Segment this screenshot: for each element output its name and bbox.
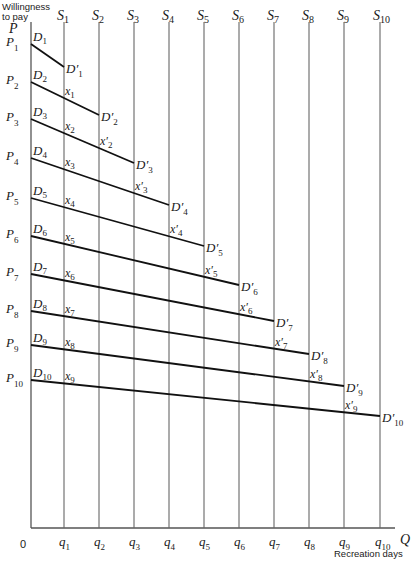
price-label-8: P8: [5, 301, 19, 320]
price-label-9: P9: [5, 335, 19, 354]
demand-end-label-4: D′4: [170, 199, 188, 217]
intersection-label-x8: x8: [64, 335, 75, 351]
intersection-label-x7: x7: [64, 302, 75, 318]
supply-lines: [64, 22, 380, 528]
price-label-3: P3: [5, 109, 19, 128]
q-tick-8: q8: [304, 534, 316, 552]
intersection-label-x6-prime: x′6: [239, 300, 253, 316]
x-axis-symbol: Q: [400, 532, 410, 547]
demand-supply-diagram: Willingnessto payP0QRecreation daysS1q1S…: [0, 0, 413, 564]
demand-curve-1: [31, 44, 64, 67]
price-label-1: P1: [5, 34, 18, 53]
supply-label-5: S5: [197, 8, 209, 25]
price-label-5: P5: [5, 188, 19, 207]
price-label-7: P7: [5, 264, 19, 283]
demand-start-label-4: D4: [32, 143, 47, 160]
intersection-label-x2-prime: x′2: [99, 134, 112, 150]
intersection-label-x9: x9: [64, 369, 75, 385]
demand-end-label-2: D′2: [100, 109, 118, 127]
demand-start-label-3: D3: [32, 104, 47, 121]
demand-start-label-1: D1: [32, 29, 47, 46]
q-tick-5: q5: [199, 534, 211, 552]
q-tick-6: q6: [234, 534, 246, 552]
demand-end-label-3: D′3: [135, 157, 153, 175]
demand-end-label-9: D′9: [345, 380, 363, 398]
supply-label-4: S4: [162, 8, 174, 25]
supply-label-3: S3: [127, 8, 139, 25]
x-axis-title: Recreation days: [334, 548, 403, 559]
price-label-4: P4: [5, 148, 19, 167]
price-label-10: P10: [5, 370, 23, 389]
intersection-label-x4-prime: x′4: [169, 222, 183, 238]
demand-start-label-2: D2: [32, 67, 47, 84]
demand-curve-9: [31, 345, 344, 386]
q-tick-7: q7: [269, 534, 281, 552]
demand-end-label-1: D′1: [65, 61, 83, 79]
intersection-label-x9-prime: x′9: [344, 398, 358, 414]
demand-curve-10: [31, 380, 380, 416]
demand-start-label-10: D10: [32, 365, 52, 382]
demand-start-label-7: D7: [32, 259, 47, 276]
intersection-label-x3: x3: [64, 155, 75, 171]
supply-label-10: S10: [373, 8, 390, 25]
demand-start-label-5: D5: [32, 183, 47, 200]
demand-start-label-6: D6: [32, 221, 47, 238]
demand-start-label-9: D9: [32, 330, 47, 347]
demand-end-label-7: D′7: [275, 315, 293, 333]
price-label-6: P6: [5, 226, 19, 245]
intersection-label-x6: x6: [64, 266, 75, 282]
supply-label-6: S6: [232, 8, 244, 25]
intersection-label-x5: x5: [64, 230, 75, 246]
q-tick-3: q3: [129, 534, 141, 552]
intersection-label-x1: x1: [64, 84, 75, 100]
supply-label-8: S8: [302, 8, 314, 25]
origin-label: 0: [20, 538, 26, 550]
supply-label-9: S9: [337, 8, 349, 25]
supply-label-1: S1: [57, 8, 69, 25]
intersection-label-x4: x4: [64, 193, 75, 209]
demand-end-label-8: D′8: [310, 348, 328, 366]
q-tick-1: q1: [59, 534, 70, 552]
intersection-label-x7-prime: x′7: [274, 335, 288, 351]
supply-label-7: S7: [267, 8, 279, 25]
intersection-label-x2: x2: [64, 119, 75, 135]
demand-start-label-8: D8: [32, 296, 47, 313]
intersection-label-x5-prime: x′5: [204, 263, 218, 279]
demand-end-label-6: D′6: [240, 279, 258, 297]
price-label-2: P2: [5, 72, 18, 91]
supply-label-2: S2: [92, 8, 104, 25]
intersection-label-x8-prime: x′8: [309, 367, 323, 383]
intersection-label-x3-prime: x′3: [134, 179, 148, 195]
demand-end-label-10: D′10: [381, 410, 404, 428]
q-tick-2: q2: [94, 534, 105, 552]
q-tick-4: q4: [164, 534, 176, 552]
demand-end-label-5: D′5: [205, 240, 223, 258]
